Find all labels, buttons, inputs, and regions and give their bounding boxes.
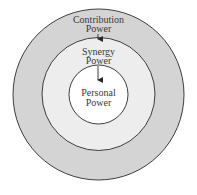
power-circles-diagram: Contribution Power Synergy Power Persona… [0,0,197,195]
inner-label-line2: Power [86,97,112,108]
middle-label-line2: Power [86,55,112,66]
outer-label-line2: Power [86,23,112,34]
